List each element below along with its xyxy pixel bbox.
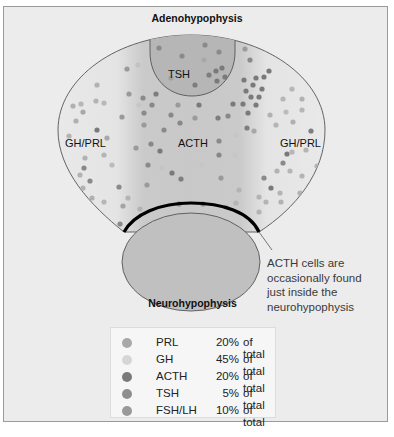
fsh-lh-swatch-icon bbox=[122, 406, 132, 416]
acth-swatch-icon bbox=[122, 372, 132, 382]
tsh-region-label: TSH bbox=[168, 68, 190, 80]
legend-item-fsh-lh: FSH/LH 10% of total bbox=[111, 403, 277, 420]
neurohypophysis-title: Neurohypophysis bbox=[110, 297, 275, 309]
tsh-swatch-icon bbox=[122, 389, 132, 399]
legend-item-gh: GH 45% of total bbox=[111, 352, 277, 369]
legend: PRL 20% of total GH 45% of total ACTH 20… bbox=[110, 327, 276, 418]
prl-swatch-icon bbox=[122, 338, 132, 348]
acth-callout-text: ACTH cells are occasionally found just i… bbox=[267, 256, 382, 314]
gh-prl-left-label: GH/PRL bbox=[65, 137, 106, 149]
legend-item-tsh: TSH 5% of total bbox=[111, 386, 277, 403]
legend-item-acth: ACTH 20% of total bbox=[111, 369, 277, 386]
gh-swatch-icon bbox=[122, 355, 132, 365]
gh-prl-right-label: GH/PRL bbox=[280, 137, 321, 149]
callout-leader-line bbox=[259, 232, 272, 250]
adenohypophysis-title: Adenohypophysis bbox=[0, 12, 394, 24]
legend-item-prl: PRL 20% of total bbox=[111, 335, 277, 352]
acth-region-label: ACTH bbox=[178, 137, 208, 149]
